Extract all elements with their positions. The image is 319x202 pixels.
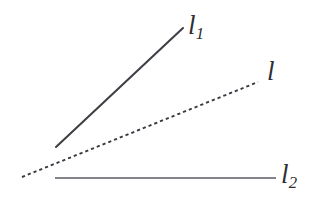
- label-line-l1: l1: [188, 12, 204, 39]
- line-l: [22, 82, 258, 177]
- label-l-base: l: [267, 56, 275, 86]
- label-line-l: l: [267, 58, 275, 85]
- label-l1-subscript: 1: [196, 24, 204, 43]
- label-line-l2: l2: [281, 161, 297, 188]
- line-l1: [56, 28, 183, 147]
- label-l1-base: l: [188, 10, 196, 40]
- lines-canvas: [0, 0, 319, 202]
- geometry-figure: l1 l l2: [0, 0, 319, 202]
- label-l2-subscript: 2: [289, 173, 297, 192]
- label-l2-base: l: [281, 159, 289, 189]
